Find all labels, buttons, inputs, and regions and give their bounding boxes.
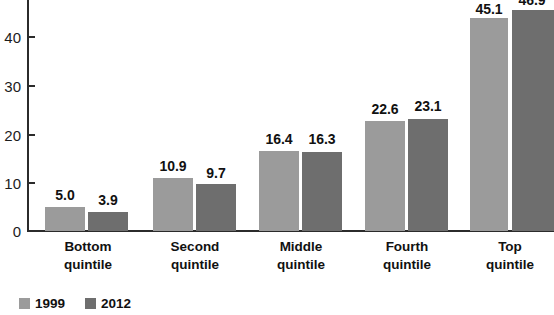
x-axis-label-line-1: Middle — [251, 238, 351, 256]
bar-1999-top-quintile — [470, 18, 508, 231]
bar-label-2012-second-quintile: 9.7 — [196, 166, 236, 180]
x-axis-label-fourth-quintile: Fourth quintile — [357, 238, 457, 274]
bar-label-1999-top-quintile: 45.1 — [465, 2, 513, 16]
x-axis-label-line-2: quintile — [357, 256, 457, 274]
legend-item-1999[interactable]: 1999 — [19, 297, 65, 311]
y-tick-20 — [28, 134, 35, 136]
legend-swatch-icon-1999 — [19, 298, 30, 309]
y-tick-label-10: 10 — [0, 176, 21, 191]
x-axis-label-line-1: Bottom — [38, 238, 138, 256]
y-tick-label-20: 20 — [0, 128, 21, 143]
x-axis-label-bottom-quintile: Bottom quintile — [38, 238, 138, 274]
y-tick-label-40: 40 — [0, 30, 21, 45]
bar-label-2012-bottom-quintile: 3.9 — [88, 193, 128, 207]
y-tick-30 — [28, 85, 35, 87]
y-tick-40 — [28, 36, 35, 38]
bar-label-1999-second-quintile: 10.9 — [150, 159, 196, 173]
bar-label-2012-top-quintile: 46.9 — [508, 0, 554, 7]
bar-1999-bottom-quintile — [45, 207, 85, 231]
x-axis-label-top-quintile: Top quintile — [460, 238, 554, 274]
legend-label-2012: 2012 — [101, 297, 131, 311]
y-tick-label-30: 30 — [0, 79, 21, 94]
bar-1999-middle-quintile — [259, 151, 299, 231]
bar-1999-second-quintile — [153, 178, 193, 231]
legend-swatch-icon-2012 — [85, 298, 96, 309]
bar-2012-bottom-quintile — [88, 212, 128, 231]
legend-label-1999: 1999 — [35, 297, 65, 311]
chart-legend: 1999 2012 — [19, 297, 131, 311]
bar-label-2012-middle-quintile: 16.3 — [299, 132, 345, 146]
bar-2012-middle-quintile — [302, 152, 342, 231]
bar-label-1999-fourth-quintile: 22.6 — [362, 102, 408, 116]
bar-2012-top-quintile — [512, 10, 554, 231]
bar-label-1999-bottom-quintile: 5.0 — [45, 188, 85, 202]
x-axis-label-line-1: Fourth — [357, 238, 457, 256]
bar-2012-fourth-quintile — [408, 119, 448, 231]
x-axis-label-middle-quintile: Middle quintile — [251, 238, 351, 274]
x-axis-label-line-2: quintile — [251, 256, 351, 274]
bar-chart: 40 30 20 10 0 5.0 3.9 Bottom quintile 10… — [0, 0, 554, 315]
y-tick-label-0: 0 — [0, 224, 21, 239]
x-axis-label-line-2: quintile — [38, 256, 138, 274]
x-axis-label-line-2: quintile — [145, 256, 245, 274]
x-axis-label-line-1: Second — [145, 238, 245, 256]
bar-2012-second-quintile — [196, 184, 236, 231]
bar-1999-fourth-quintile — [365, 121, 405, 231]
y-tick-10 — [28, 182, 35, 184]
bar-label-2012-fourth-quintile: 23.1 — [405, 99, 451, 113]
y-axis-line — [27, 0, 29, 231]
x-axis-label-line-1: Top — [460, 238, 554, 256]
legend-item-2012[interactable]: 2012 — [85, 297, 131, 311]
x-axis-label-second-quintile: Second quintile — [145, 238, 245, 274]
x-axis-label-line-2: quintile — [460, 256, 554, 274]
bar-label-1999-middle-quintile: 16.4 — [256, 132, 302, 146]
